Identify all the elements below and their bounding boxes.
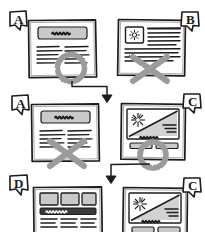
sunburst-icon-tile (126, 27, 144, 43)
image-card-2[interactable] (61, 193, 79, 205)
panel-label-a1: A (14, 13, 23, 26)
panel-label-c2: C (188, 95, 197, 108)
sketch-canvas: A B A C D C Hand-drawn A/B test wirefram… (0, 0, 205, 232)
panel-label-a2: A (16, 97, 25, 110)
cta-button-primary[interactable] (132, 227, 154, 232)
panel-c-row3[interactable] (123, 188, 188, 233)
handdrawn-wireframe-diagram (0, 0, 205, 232)
panel-c-row2[interactable] (121, 104, 186, 160)
panel-label-b1: B (186, 13, 195, 26)
image-card-1[interactable] (40, 193, 58, 205)
panel-d-row3[interactable] (34, 187, 103, 232)
cta-button-secondary[interactable] (158, 227, 180, 232)
flow-arrow-down-1 (72, 81, 112, 103)
panel-label-d3: D (14, 177, 23, 190)
image-card-3[interactable] (82, 193, 96, 205)
panel-label-c3: C (188, 179, 197, 192)
